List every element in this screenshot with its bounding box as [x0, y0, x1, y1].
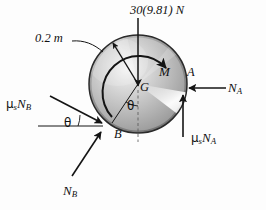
normal-a-subscript: A — [237, 86, 242, 96]
center-of-gravity-label: G — [140, 81, 149, 94]
friction-force-b-label: μsNB — [6, 97, 31, 112]
normal-force-b — [72, 132, 101, 176]
angle-b-label: θ — [64, 117, 71, 129]
angle-b-arc — [78, 115, 80, 126]
normal-force-a-label: NA — [228, 81, 242, 96]
point-a-label: A — [187, 66, 195, 79]
point-b-label: B — [114, 128, 122, 141]
radius-leader-line — [72, 41, 103, 52]
normal-b-arrow — [72, 132, 101, 176]
free-body-diagram-figure: 30(9.81) N 0.2 m M G A B NA NB μsNA μsNB… — [0, 0, 266, 210]
mu-symbol-b: μ — [6, 97, 14, 111]
normal-a-symbol: N — [228, 80, 237, 95]
weight-label: 30(9.81) N — [130, 4, 184, 17]
center-angle-label: θ — [127, 100, 134, 112]
theta-symbol-b: θ — [64, 116, 71, 130]
friction-a-n-symbol: N — [202, 130, 211, 145]
friction-b-n-symbol: N — [17, 96, 26, 111]
mu-symbol-a: μ — [191, 131, 199, 145]
moment-label: M — [159, 65, 170, 78]
friction-b-n-subscript: B — [26, 102, 31, 112]
theta-symbol-center: θ — [127, 99, 134, 113]
friction-force-a-label: μsNA — [191, 131, 216, 146]
radius-label: 0.2 m — [35, 32, 63, 45]
normal-b-symbol: N — [63, 183, 72, 198]
friction-a-n-subscript: A — [211, 136, 216, 146]
normal-b-subscript: B — [72, 189, 77, 199]
normal-force-b-label: NB — [63, 184, 77, 199]
